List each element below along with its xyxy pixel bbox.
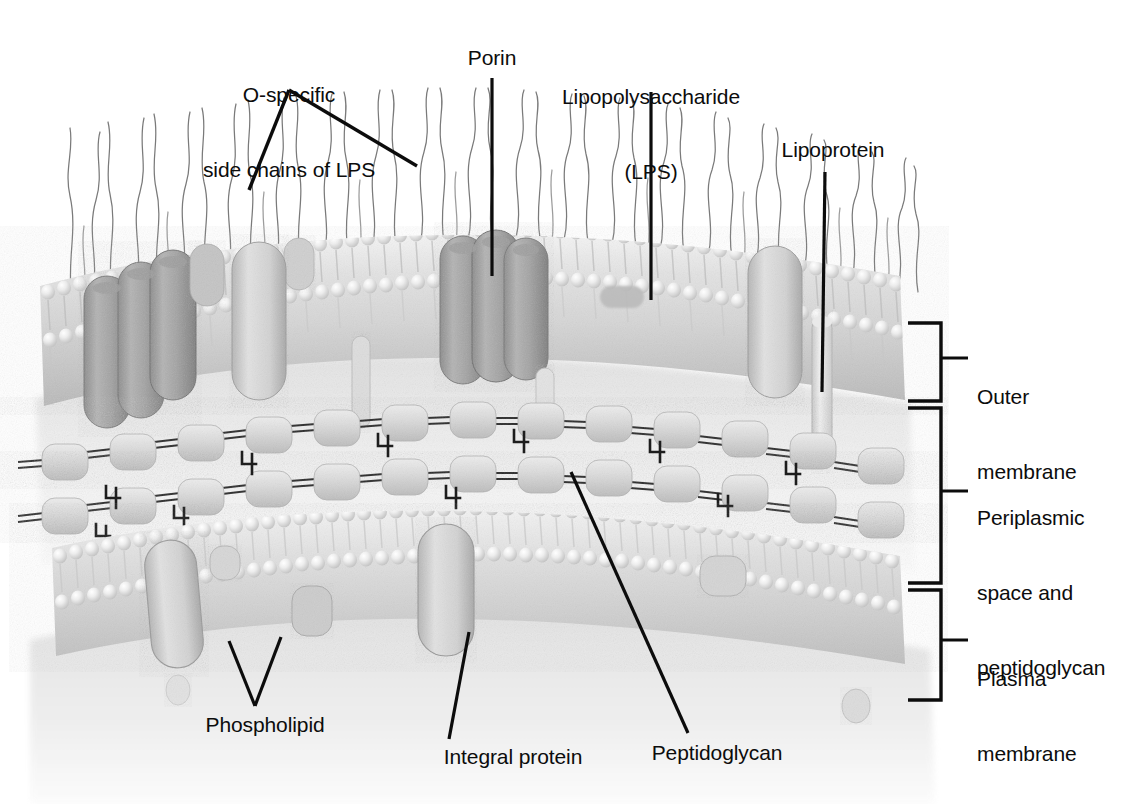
label-lipoprotein: Lipoprotein <box>782 137 885 162</box>
label-outer-membrane-line1: Outer <box>977 384 1077 409</box>
label-o-specific-line1: O-specific <box>203 82 375 107</box>
label-lps-line1: Lipopolysaccharide <box>562 84 740 109</box>
label-plasma-membrane-line1: Plasma <box>977 666 1077 691</box>
label-periplasm-line1: Periplasmic <box>977 505 1105 530</box>
outer-membrane-protein-far-right <box>748 246 802 398</box>
integral-protein-right <box>700 556 746 596</box>
outer-membrane-protein-right <box>232 242 286 400</box>
label-integral-protein: Integral protein <box>444 744 583 769</box>
integral-protein-small-mid <box>292 586 332 636</box>
integral-protein-lower-left <box>166 675 190 705</box>
label-phospholipid: Phospholipid <box>205 712 324 737</box>
label-plasma-membrane: Plasma membrane <box>977 616 1077 791</box>
label-lps-line2: (LPS) <box>562 159 740 184</box>
label-peptidoglycan: Peptidoglycan <box>652 740 783 765</box>
label-o-specific-line2: side chains of LPS <box>203 157 375 182</box>
label-porin: Porin <box>468 45 517 70</box>
integral-protein-small-left <box>210 546 240 580</box>
integral-protein-lower-right <box>842 689 870 723</box>
label-o-specific-side-chains: O-specific side chains of LPS <box>203 32 375 207</box>
label-plasma-membrane-line2: membrane <box>977 741 1077 766</box>
porin-center-cluster <box>440 230 548 384</box>
label-lipopolysaccharide: Lipopolysaccharide (LPS) <box>562 34 740 209</box>
label-periplasm-line2: space and <box>977 580 1105 605</box>
integral-protein-center <box>418 524 474 656</box>
